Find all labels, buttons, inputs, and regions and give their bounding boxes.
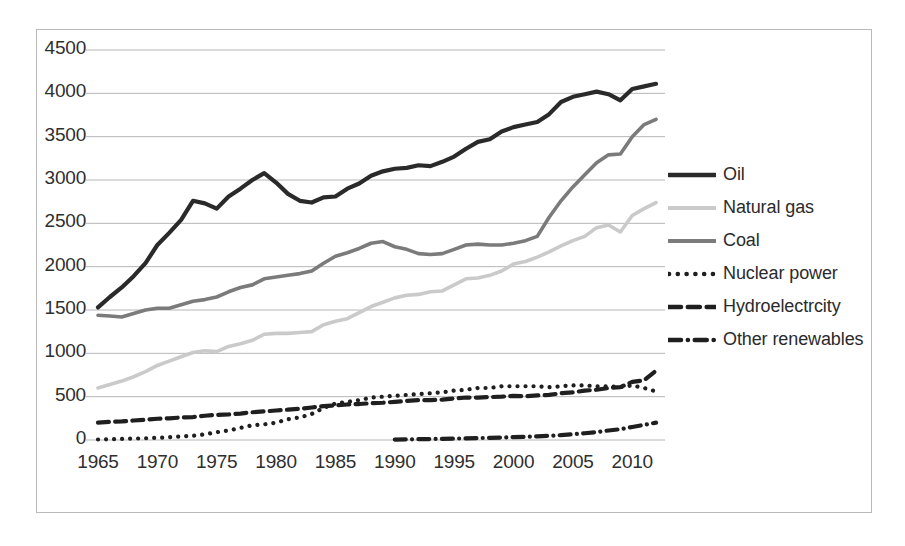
legend-swatch-icon (668, 267, 716, 281)
legend-item-nuclear-power[interactable]: Nuclear power (668, 257, 883, 290)
series-line-oil (98, 84, 656, 308)
x-tick-label: 1965 (68, 451, 128, 473)
legend-swatch-icon (668, 300, 716, 314)
y-tick-label: 2500 (40, 210, 86, 232)
x-tick-label: 1985 (305, 451, 365, 473)
y-tick-label: 4000 (40, 80, 86, 102)
series-line-other-renewables (395, 423, 656, 440)
legend-label: Coal (723, 230, 760, 251)
chart-legend: OilNatural gasCoalNuclear powerHydroelec… (668, 158, 883, 356)
legend-swatch-icon (668, 201, 716, 215)
legend-label: Natural gas (723, 197, 814, 218)
x-tick-label: 1990 (365, 451, 425, 473)
legend-item-natural-gas[interactable]: Natural gas (668, 191, 883, 224)
x-tick-label: 2010 (602, 451, 662, 473)
y-tick-label: 0 (40, 427, 86, 449)
legend-item-coal[interactable]: Coal (668, 224, 883, 257)
legend-item-oil[interactable]: Oil (668, 158, 883, 191)
x-tick-label: 1980 (246, 451, 306, 473)
legend-label: Hydroelectrcity (723, 296, 841, 317)
series-line-natural-gas (98, 203, 656, 388)
x-tick-label: 2005 (543, 451, 603, 473)
x-tick-label: 1970 (127, 451, 187, 473)
chart-page: 450040003500300025002000150010005000 196… (0, 0, 905, 546)
y-tick-label: 3000 (40, 167, 86, 189)
legend-swatch-icon (668, 333, 716, 347)
x-tick-label: 1995 (424, 451, 484, 473)
legend-label: Oil (723, 164, 745, 185)
legend-item-hydroelectrcity[interactable]: Hydroelectrcity (668, 290, 883, 323)
legend-item-other-renewables[interactable]: Other renewables (668, 323, 883, 356)
y-tick-label: 500 (40, 384, 86, 406)
legend-swatch-icon (668, 234, 716, 248)
legend-label: Nuclear power (723, 263, 838, 284)
y-tick-label: 4500 (40, 37, 86, 59)
legend-label: Other renewables (723, 329, 863, 350)
y-tick-label: 1500 (40, 297, 86, 319)
x-tick-label: 1975 (187, 451, 247, 473)
y-tick-label: 3500 (40, 124, 86, 146)
y-tick-label: 2000 (40, 254, 86, 276)
y-tick-label: 1000 (40, 340, 86, 362)
legend-swatch-icon (668, 168, 716, 182)
x-tick-label: 2000 (484, 451, 544, 473)
